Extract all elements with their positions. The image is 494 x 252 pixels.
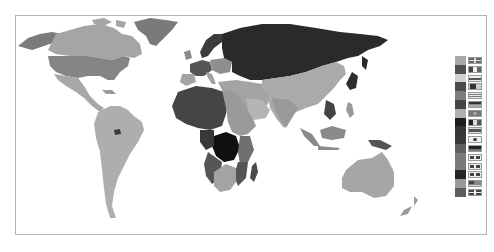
canton-flag-icon xyxy=(468,83,482,90)
vertical-tricolor-flag-icon xyxy=(468,66,482,73)
region-east-africa xyxy=(238,136,254,164)
region-iberia xyxy=(180,74,196,86)
legend-row xyxy=(455,179,485,188)
horizontal-stripes-flag-icon xyxy=(468,92,482,99)
region-indochina xyxy=(324,100,336,120)
legend-swatch xyxy=(455,135,466,144)
legend-swatch xyxy=(455,153,466,162)
grid-flag-icon xyxy=(468,154,482,161)
legend-swatch xyxy=(455,65,466,74)
region-south-america xyxy=(94,106,144,218)
circle-flag-icon xyxy=(468,136,482,143)
grid-flag-icon xyxy=(468,171,482,178)
region-french-guiana xyxy=(114,129,121,135)
region-central-africa xyxy=(212,132,240,162)
legend-row xyxy=(455,188,485,197)
legend-swatch xyxy=(455,74,466,83)
legend-swatch xyxy=(455,144,466,153)
legend-row xyxy=(455,144,485,153)
region-central-africa-west xyxy=(200,130,214,150)
legend-swatch xyxy=(455,188,466,197)
legend-row xyxy=(455,170,485,179)
legend-swatch xyxy=(455,100,466,109)
legend-row xyxy=(455,135,485,144)
legend-swatch xyxy=(455,162,466,171)
legend-row xyxy=(455,109,485,118)
legend-row xyxy=(455,74,485,83)
legend-swatch xyxy=(455,109,466,118)
region-italy xyxy=(206,72,216,84)
region-russia xyxy=(222,24,388,80)
legend-swatch xyxy=(455,170,466,179)
legend-row xyxy=(455,126,485,135)
grid-flag-icon xyxy=(468,163,482,170)
legend-row xyxy=(455,153,485,162)
legend-row xyxy=(455,82,485,91)
region-caribbean xyxy=(102,90,116,94)
legend-swatch xyxy=(455,126,466,135)
legend-row xyxy=(455,100,485,109)
region-canada xyxy=(48,24,142,60)
legend-swatch xyxy=(455,118,466,127)
region-new-zealand xyxy=(400,196,418,216)
region-philippines xyxy=(346,102,354,118)
emblem-flag-icon xyxy=(468,110,482,117)
region-mozambique xyxy=(234,162,248,186)
region-west-africa xyxy=(172,86,228,130)
horizontal-tricolor-flag-icon xyxy=(468,101,482,108)
striped-canton-flag-icon xyxy=(468,180,482,187)
legend-row xyxy=(455,91,485,100)
region-japan xyxy=(346,72,358,90)
legend-swatch xyxy=(455,179,466,188)
legend-row xyxy=(455,56,485,65)
region-far-east-islands xyxy=(362,56,368,70)
region-greenland xyxy=(134,18,178,46)
world-map xyxy=(0,0,494,252)
legend-row xyxy=(455,162,485,171)
horizontal-bicolor-flag-icon xyxy=(468,127,482,134)
legend-row xyxy=(455,65,485,74)
uk-flag-icon xyxy=(468,57,482,64)
region-central-europe xyxy=(210,58,232,74)
legend-swatch xyxy=(455,82,466,91)
cross-flag-icon xyxy=(468,189,482,196)
region-indonesia xyxy=(300,126,346,150)
region-mexico xyxy=(54,74,104,112)
region-madagascar xyxy=(250,162,258,182)
legend-swatch xyxy=(455,56,466,65)
region-new-guinea xyxy=(368,140,392,150)
dark-band-flag-icon xyxy=(468,145,482,152)
legend-row xyxy=(455,118,485,127)
region-scandinavia xyxy=(200,34,222,58)
legend-swatch xyxy=(455,91,466,100)
legend xyxy=(455,56,485,197)
vertical-tricolor-dark-flag-icon xyxy=(468,119,482,126)
horizontal-band-flag-icon xyxy=(468,75,482,82)
region-australia xyxy=(342,152,394,198)
region-uk xyxy=(184,50,192,60)
